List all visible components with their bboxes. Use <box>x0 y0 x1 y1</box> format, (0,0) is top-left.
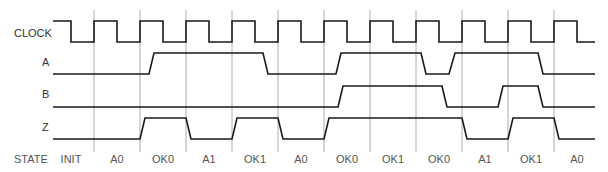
state-cell: OK1 <box>520 153 542 165</box>
state-cell: OK0 <box>152 153 174 165</box>
state-cell: OK1 <box>382 153 404 165</box>
signal-label-clock: CLOCK <box>14 27 53 39</box>
state-cell: A0 <box>570 153 583 165</box>
signal-label-a: A <box>42 56 50 68</box>
state-cell: OK0 <box>336 153 358 165</box>
state-cell: OK0 <box>428 153 450 165</box>
state-cell: A0 <box>110 153 123 165</box>
state-cell: A1 <box>202 153 215 165</box>
state-cell: A0 <box>294 153 307 165</box>
state-row: STATE INIT A0 OK0 A1 OK1 A0 OK0 OK1 OK0 … <box>14 153 584 165</box>
signal-label-b: B <box>42 88 49 100</box>
state-cell: OK1 <box>244 153 266 165</box>
timing-diagram: CLOCK A B Z STATE INIT A0 OK0 A1 OK1 A0 … <box>0 0 608 172</box>
clock-waveform <box>53 21 595 42</box>
state-cell: INIT <box>61 153 82 165</box>
signal-label-z: Z <box>42 121 49 133</box>
state-label: STATE <box>14 153 48 165</box>
state-cell: A1 <box>478 153 491 165</box>
